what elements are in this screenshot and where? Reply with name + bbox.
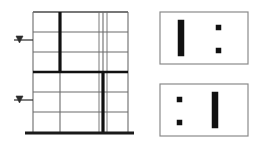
plan-views-group — [160, 12, 248, 136]
plan-lower-stories — [160, 84, 248, 136]
plan-outline — [160, 12, 248, 64]
structural-frame-figure — [0, 0, 259, 147]
plan-upper-stories — [160, 12, 248, 64]
plan-outline — [160, 84, 248, 136]
plan-column — [177, 120, 182, 125]
plan-column — [216, 25, 221, 30]
shear-wall — [212, 92, 218, 128]
plan-column — [216, 48, 221, 53]
shear-wall — [178, 20, 184, 56]
plan-column — [177, 97, 182, 102]
plans-layer — [0, 0, 259, 147]
plans-svg — [0, 0, 259, 147]
